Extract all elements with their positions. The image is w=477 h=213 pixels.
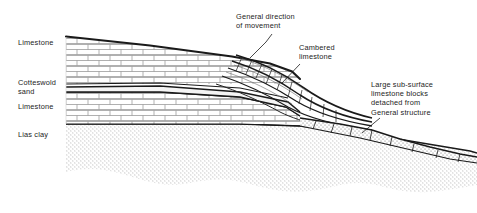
geological-cross-section-figure: Limestone Cotteswold sand Limestone Lias… [0,0,477,213]
stratum-label-limestone-lower: Limestone [18,102,53,111]
stratum-label-cotteswold-sand: Cotteswold sand [18,78,56,96]
annotation-large-sub-surface-blocks: Large sub-surface limestone blocks detac… [371,80,433,117]
layer-lias-clay [66,124,477,192]
stratum-label-lias-clay: Lias clay [18,130,48,139]
annotation-cambered-limestone: Cambered limestone [299,43,335,61]
lias-clay-body [66,124,477,192]
leader-general-direction [250,34,272,58]
stratum-label-limestone-upper: Limestone [18,38,53,47]
annotation-general-direction-of-movement: General direction of movement [236,12,295,30]
